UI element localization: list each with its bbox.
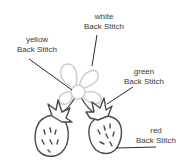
strawberry-right-seed xyxy=(106,134,108,138)
strawberry-right-seed xyxy=(110,142,112,146)
strawberry-left-seed xyxy=(55,130,56,134)
label-green-stitch: Back Stitch xyxy=(122,77,166,87)
flower-petal-top-left xyxy=(61,64,77,86)
strawberry-right-seed xyxy=(113,132,114,136)
label-white-stitch: Back Stitch xyxy=(84,22,124,32)
strawberry-right xyxy=(86,98,121,153)
label-green-color: green xyxy=(122,67,166,77)
strawberry-left-seed xyxy=(48,150,50,152)
label-yellow-color: yellow xyxy=(16,35,58,45)
leader-line-green xyxy=(107,87,133,104)
flower-center xyxy=(71,85,85,99)
label-green: green Back Stitch xyxy=(122,67,166,87)
label-red-stitch: Back Stitch xyxy=(134,136,178,146)
strawberry-right-seed xyxy=(100,142,104,144)
label-yellow-stitch: Back Stitch xyxy=(16,45,58,55)
label-white-color: white xyxy=(84,12,124,22)
label-red: red Back Stitch xyxy=(134,126,178,146)
flower-petal-top-right xyxy=(80,70,98,88)
leader-line-red xyxy=(116,147,156,148)
strawberry-right-seed xyxy=(104,126,105,130)
flower xyxy=(59,64,101,104)
strawberry-left-seed xyxy=(50,128,51,132)
leader-line-white xyxy=(92,35,97,66)
strawberry-left-seed xyxy=(42,140,44,144)
label-white: white Back Stitch xyxy=(84,12,124,32)
label-yellow: yellow Back Stitch xyxy=(16,35,58,55)
flower-petal-left xyxy=(59,92,72,104)
strawberry-left-seed xyxy=(57,140,58,144)
strawberry-left-seed xyxy=(50,140,52,144)
strawberry-right-seed xyxy=(98,130,100,134)
strawberry-left-seed xyxy=(44,130,45,134)
label-red-color: red xyxy=(134,126,178,136)
